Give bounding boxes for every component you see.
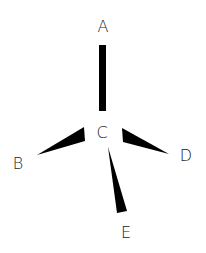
wedge-bond-c-e: [108, 147, 127, 213]
atom-label-d: D: [178, 148, 194, 164]
wedge-bond-c-b: [37, 127, 85, 155]
atom-label-e: E: [118, 225, 134, 241]
atom-label-a: A: [95, 19, 111, 35]
atom-label-b: B: [10, 156, 26, 172]
atom-label-c: C: [94, 125, 110, 141]
bond-c-a: [99, 45, 106, 111]
wedge-bond-c-d: [122, 128, 169, 154]
diagram-canvas: A C B D E: [0, 0, 206, 253]
